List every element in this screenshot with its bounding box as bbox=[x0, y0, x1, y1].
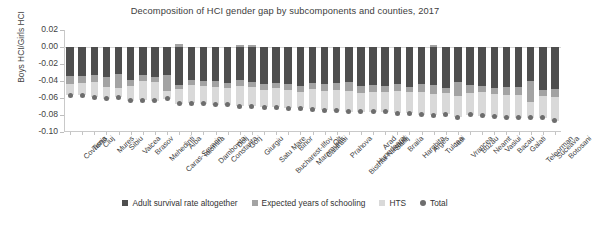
total-marker-dot[interactable] bbox=[395, 111, 400, 116]
bar-group[interactable] bbox=[236, 30, 244, 132]
bar-segment-asr[interactable] bbox=[163, 47, 171, 75]
legend-item[interactable]: Adult survival rate altogether bbox=[122, 198, 237, 208]
bar-segment-asr[interactable] bbox=[466, 47, 474, 85]
bar-group[interactable] bbox=[200, 30, 208, 132]
bar-segment-asr[interactable] bbox=[478, 47, 486, 86]
bar-segment-asr[interactable] bbox=[175, 47, 183, 85]
bar-segment-asr[interactable] bbox=[442, 47, 450, 88]
bar-segment-asr[interactable] bbox=[139, 47, 147, 75]
total-marker-dot[interactable] bbox=[468, 112, 473, 117]
bar-segment-asr[interactable] bbox=[357, 47, 365, 86]
bar-group[interactable] bbox=[91, 30, 99, 132]
bar-segment-eys[interactable] bbox=[551, 89, 559, 97]
bar-segment-eys[interactable] bbox=[369, 85, 377, 92]
bar-segment-asr[interactable] bbox=[188, 47, 196, 80]
bar-segment-asr[interactable] bbox=[527, 47, 535, 81]
bar-group[interactable] bbox=[321, 30, 329, 132]
bar-segment-asr[interactable] bbox=[369, 47, 377, 85]
bar-segment-asr[interactable] bbox=[430, 47, 438, 85]
bar-segment-asr[interactable] bbox=[333, 47, 341, 83]
total-marker-dot[interactable] bbox=[371, 109, 376, 114]
bar-segment-asr[interactable] bbox=[551, 47, 559, 89]
legend-item[interactable]: HTS bbox=[379, 198, 406, 208]
bar-segment-asr[interactable] bbox=[236, 47, 244, 80]
bar-segment-asr[interactable] bbox=[515, 47, 523, 87]
legend-item[interactable]: Expected years of schooling bbox=[252, 198, 366, 208]
bar-segment-eys[interactable] bbox=[527, 81, 535, 102]
bar-segment-asr[interactable] bbox=[539, 47, 547, 90]
total-marker-dot[interactable] bbox=[274, 105, 279, 110]
bar-segment-asr[interactable] bbox=[394, 47, 402, 84]
bar-segment-eys[interactable] bbox=[515, 87, 523, 95]
bar-segment-hts[interactable] bbox=[551, 97, 559, 121]
bar-segment-eys[interactable] bbox=[539, 90, 547, 97]
total-marker-dot[interactable] bbox=[92, 95, 97, 100]
total-marker-dot[interactable] bbox=[504, 115, 509, 120]
bar-group[interactable] bbox=[163, 30, 171, 132]
bar-group[interactable] bbox=[103, 30, 111, 132]
bar-group[interactable] bbox=[345, 30, 353, 132]
total-marker-dot[interactable] bbox=[68, 93, 73, 98]
bar-group[interactable] bbox=[151, 30, 159, 132]
bar-segment-asr[interactable] bbox=[151, 47, 159, 77]
bar-group[interactable] bbox=[357, 30, 365, 132]
bar-segment-eys[interactable] bbox=[115, 74, 123, 88]
bar-segment-asr[interactable] bbox=[66, 47, 74, 76]
total-marker-dot[interactable] bbox=[407, 111, 412, 116]
bar-group[interactable] bbox=[551, 30, 559, 132]
total-marker-dot[interactable] bbox=[262, 105, 267, 110]
bar-segment-eys[interactable] bbox=[103, 77, 111, 87]
bar-segment-eys[interactable] bbox=[430, 85, 438, 94]
bar-segment-hts[interactable] bbox=[454, 96, 462, 117]
bar-segment-eys[interactable] bbox=[357, 86, 365, 94]
bar-segment-asr[interactable] bbox=[115, 47, 123, 74]
bar-group[interactable] bbox=[66, 30, 74, 132]
bar-segment-asr[interactable] bbox=[224, 47, 232, 83]
bar-segment-asr[interactable] bbox=[406, 47, 414, 87]
total-marker-dot[interactable] bbox=[431, 113, 436, 118]
bar-segment-asr[interactable] bbox=[200, 47, 208, 81]
total-marker-dot[interactable] bbox=[80, 93, 85, 98]
bar-segment-asr[interactable] bbox=[418, 47, 426, 84]
bar-segment-eys[interactable] bbox=[454, 82, 462, 96]
bar-segment-hts[interactable] bbox=[394, 91, 402, 113]
total-marker-dot[interactable] bbox=[383, 109, 388, 114]
bar-group[interactable] bbox=[212, 30, 220, 132]
bar-group[interactable] bbox=[175, 30, 183, 132]
bar-group[interactable] bbox=[333, 30, 341, 132]
bar-segment-eys[interactable] bbox=[66, 76, 74, 84]
total-marker-dot[interactable] bbox=[298, 106, 303, 111]
bar-segment-asr[interactable] bbox=[297, 47, 305, 86]
bar-segment-eys[interactable] bbox=[345, 82, 353, 91]
legend-item[interactable]: Total bbox=[420, 198, 448, 208]
total-marker-dot[interactable] bbox=[116, 95, 121, 100]
total-marker-dot[interactable] bbox=[140, 98, 145, 103]
bar-segment-eys[interactable] bbox=[418, 84, 426, 92]
bar-group[interactable] bbox=[139, 30, 147, 132]
bar-segment-asr[interactable] bbox=[260, 47, 268, 84]
bar-group[interactable] bbox=[442, 30, 450, 132]
bar-segment-eys[interactable] bbox=[466, 85, 474, 93]
bar-segment-asr[interactable] bbox=[321, 47, 329, 84]
bar-group[interactable] bbox=[115, 30, 123, 132]
bar-group[interactable] bbox=[406, 30, 414, 132]
bar-segment-asr[interactable] bbox=[284, 47, 292, 84]
bar-segment-asr[interactable] bbox=[212, 47, 220, 81]
bar-segment-eys[interactable] bbox=[503, 87, 511, 96]
bar-group[interactable] bbox=[188, 30, 196, 132]
bar-segment-asr[interactable] bbox=[454, 47, 462, 82]
bar-segment-eys[interactable] bbox=[91, 75, 99, 82]
bar-segment-asr[interactable] bbox=[127, 47, 135, 80]
bar-segment-hts[interactable] bbox=[442, 93, 450, 114]
bar-segment-asr[interactable] bbox=[78, 47, 86, 76]
bar-group[interactable] bbox=[248, 30, 256, 132]
bar-group[interactable] bbox=[369, 30, 377, 132]
bar-segment-asr[interactable] bbox=[272, 47, 280, 83]
total-marker-dot[interactable] bbox=[322, 108, 327, 113]
bar-segment-eys[interactable] bbox=[394, 84, 402, 91]
bar-group[interactable] bbox=[309, 30, 317, 132]
bar-segment-asr[interactable] bbox=[91, 47, 99, 75]
total-marker-dot[interactable] bbox=[165, 96, 170, 101]
bar-group[interactable] bbox=[381, 30, 389, 132]
total-marker-dot[interactable] bbox=[189, 101, 194, 106]
